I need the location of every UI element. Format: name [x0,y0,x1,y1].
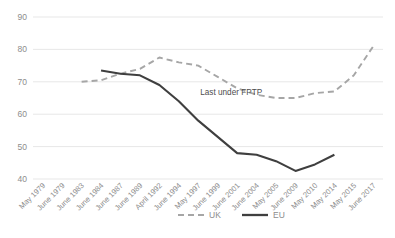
y-axis-tick-label: 90 [18,12,28,22]
series-line-eu [101,70,334,170]
y-axis-tick-label: 70 [18,77,28,87]
y-axis-tick-label: 80 [18,44,28,54]
y-axis-tick-label: 60 [18,109,28,119]
legend-label-eu[interactable]: EU [273,210,285,220]
y-axis-tick-label: 50 [18,142,28,152]
y-axis-tick-label: 40 [18,174,28,184]
legend-label-uk[interactable]: UK [209,210,221,220]
turnout-line-chart: 405060708090May 1979June 1979June 1983Ju… [0,0,395,238]
chart-canvas: 405060708090May 1979June 1979June 1983Ju… [0,0,395,238]
chart-annotation: Last under FPTP [200,88,262,97]
